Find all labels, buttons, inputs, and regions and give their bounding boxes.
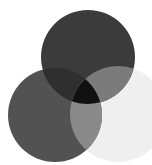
venn-diagram xyxy=(0,0,152,165)
